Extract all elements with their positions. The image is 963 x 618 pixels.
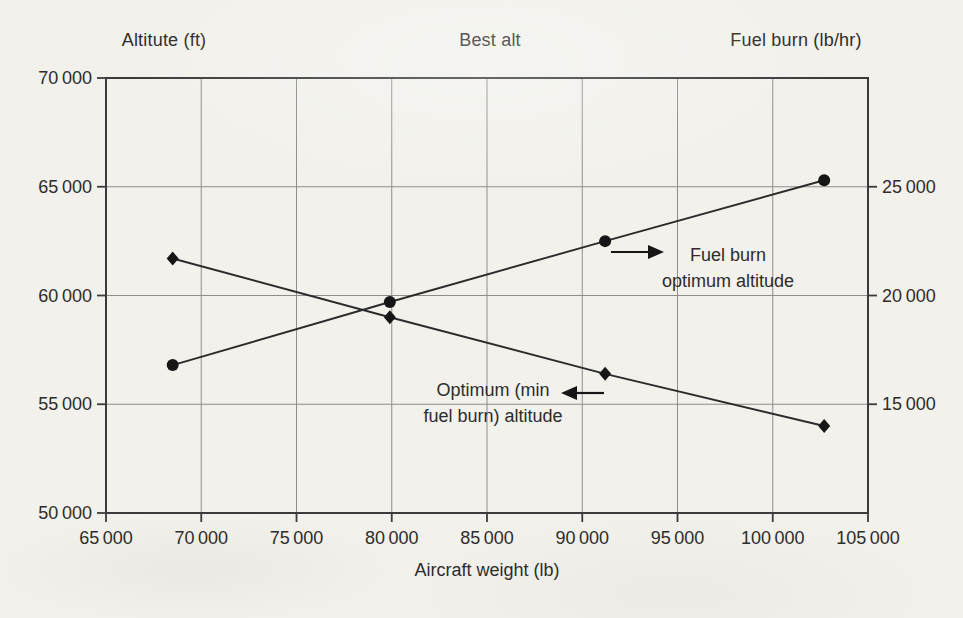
left-axis-tick-label: 55 000 [38,394,92,414]
left-axis-tick-label: 60 000 [38,286,92,306]
annotation-text-line: fuel burn) altitude [395,403,591,429]
right-axis-title: Fuel burn (lb/hr) [723,30,869,51]
data-point-diamond [384,310,396,324]
chart-title: Best alt [435,30,545,51]
data-point-diamond [599,367,611,381]
data-point-circle [818,174,830,186]
x-axis-tick-label: 105 000 [836,528,900,548]
x-axis-tick-label: 70 000 [174,528,228,548]
x-axis-tick-label: 90 000 [555,528,609,548]
left-axis-tick-label: 50 000 [38,503,92,523]
x-axis-tick-label: 65 000 [79,528,133,548]
x-axis-title: Aircraft weight (lb) [377,560,597,581]
x-axis-tick-label: 85 000 [460,528,514,548]
left-axis-tick-label: 65 000 [38,177,92,197]
x-axis-tick-label: 75 000 [270,528,324,548]
data-point-diamond [818,419,830,433]
annotation-fuel-burn-optimum-altitude: Fuel burn optimum altitude [630,242,826,294]
data-point-circle [599,235,611,247]
chart-plot-area: 50 00055 00060 00065 00070 00015 00020 0… [0,0,963,618]
right-axis-tick-label: 25 000 [882,177,936,197]
data-point-circle [384,296,396,308]
annotation-text-line: optimum altitude [630,268,826,294]
data-point-diamond [167,252,179,266]
x-axis-tick-label: 100 000 [741,528,805,548]
left-axis-tick-label: 70 000 [38,68,92,88]
data-point-circle [167,359,179,371]
x-axis-tick-label: 95 000 [651,528,705,548]
right-axis-tick-label: 20 000 [882,286,936,306]
annotation-text-line: Fuel burn [630,242,826,268]
x-axis-tick-label: 80 000 [365,528,419,548]
annotation-optimum-min-fuel-burn-altitude: Optimum (min fuel burn) altitude [395,377,591,429]
chart-figure: 50 00055 00060 00065 00070 00015 00020 0… [0,0,963,618]
right-axis-tick-label: 15 000 [882,394,936,414]
annotation-text-line: Optimum (min [395,377,591,403]
left-axis-title: Altitute (ft) [93,30,235,51]
